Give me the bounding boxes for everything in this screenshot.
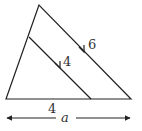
label-dimension-a: a (61, 110, 69, 125)
triangle-diagram: 6 4 4 a (0, 0, 142, 131)
label-inner-segment: 4 (63, 54, 71, 69)
outer-triangle (6, 5, 131, 99)
parallel-arrow-icon (55, 61, 60, 68)
label-outer-side: 6 (88, 37, 96, 52)
label-base-segment: 4 (48, 101, 56, 116)
